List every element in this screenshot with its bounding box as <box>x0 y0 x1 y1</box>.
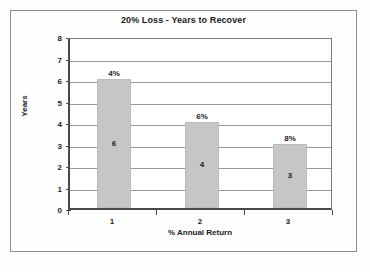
bar[interactable]: 6 <box>97 79 131 208</box>
y-tick-label: 2 <box>46 163 62 172</box>
y-axis-title: Years <box>20 76 32 136</box>
x-tick-label: 1 <box>92 217 132 226</box>
chart-title: 20% Loss - Years to Recover <box>10 15 357 25</box>
y-tick-label: 4 <box>46 120 62 129</box>
x-tick-mark <box>156 210 157 215</box>
x-tick-mark <box>68 210 69 215</box>
x-axis-title: % Annual Return <box>68 228 332 237</box>
chart-figure: 20% Loss - Years to Recover Years 012345… <box>0 0 370 272</box>
y-tick-label: 3 <box>46 141 62 150</box>
bar-value-label: 6 <box>98 139 130 148</box>
x-tick-label: 3 <box>268 217 308 226</box>
bar[interactable]: 3 <box>273 144 307 209</box>
bar-annotation-label: 4% <box>97 69 131 78</box>
y-tick-label: 8 <box>46 34 62 43</box>
x-tick-mark <box>244 210 245 215</box>
gridline <box>70 61 331 62</box>
bar-annotation-label: 8% <box>273 134 307 143</box>
y-tick-label: 7 <box>46 55 62 64</box>
bar-value-label: 3 <box>274 171 306 180</box>
x-tick-mark <box>332 210 333 215</box>
x-tick-label: 2 <box>180 217 220 226</box>
bar[interactable]: 4 <box>185 122 219 208</box>
y-tick-label: 1 <box>46 184 62 193</box>
y-tick-label: 5 <box>46 98 62 107</box>
plot-area: 64%46%38% <box>68 38 332 210</box>
y-axis-ticks: 012345678 <box>44 38 62 210</box>
y-tick-label: 0 <box>46 206 62 215</box>
bar-annotation-label: 6% <box>185 112 219 121</box>
bar-value-label: 4 <box>186 160 218 169</box>
y-tick-label: 6 <box>46 77 62 86</box>
